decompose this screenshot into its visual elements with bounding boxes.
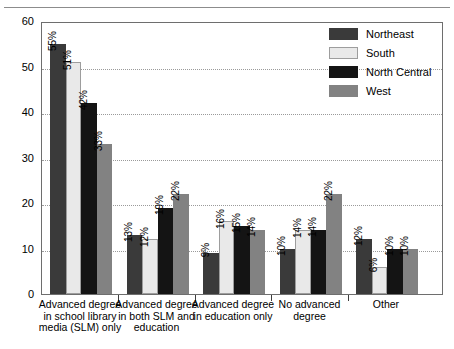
legend-label: North Central <box>366 66 431 78</box>
bar[interactable]: 14% <box>311 230 327 294</box>
bar-value-label: 22% <box>171 181 181 201</box>
bar[interactable]: 22% <box>173 194 189 294</box>
bar-value-label: 12% <box>140 227 150 247</box>
bar[interactable]: 14% <box>250 230 266 294</box>
legend-item[interactable]: North Central <box>329 62 447 81</box>
legend-label: Northeast <box>366 28 414 40</box>
x-axis-category-line: education <box>109 322 205 334</box>
bar[interactable]: 55% <box>50 44 66 294</box>
legend-swatch <box>329 28 358 40</box>
legend-swatch <box>329 66 358 78</box>
bar[interactable]: 22% <box>326 194 342 294</box>
y-axis-tick-label: 10 <box>8 243 34 255</box>
bar-group: 55%51%42%33% <box>50 23 112 294</box>
bar-value-label: 10% <box>385 235 395 255</box>
y-axis-tick-label: 40 <box>8 106 34 118</box>
y-axis-tick-label: 20 <box>8 197 34 209</box>
y-axis-tick-label: 0 <box>8 288 34 300</box>
bar-value-label: 42% <box>79 90 89 110</box>
bar[interactable]: 19% <box>158 208 174 294</box>
bar[interactable]: 9% <box>203 253 219 294</box>
bar-value-label: 15% <box>232 213 242 233</box>
legend-item[interactable]: South <box>329 43 447 62</box>
bar-value-label: 16% <box>216 209 226 229</box>
bar-value-label: 13% <box>124 222 134 242</box>
bar[interactable]: 12% <box>142 239 158 294</box>
x-axis-category-line: degree <box>262 311 358 323</box>
bar-group: 9%16%15%14% <box>203 23 265 294</box>
grouped-bar-chart: 0102030405060 55%51%42%33%13%12%19%22%9%… <box>0 0 454 349</box>
bar-value-label: 14% <box>247 217 257 237</box>
legend-label: West <box>366 85 391 97</box>
bar-value-label: 14% <box>293 218 303 238</box>
legend-swatch <box>329 47 358 59</box>
bar-value-label: 10% <box>277 235 287 255</box>
legend-item[interactable]: West <box>329 81 447 100</box>
y-axis-tick-label: 50 <box>8 61 34 73</box>
chart-legend: NortheastSouthNorth CentralWest <box>329 24 447 100</box>
bar[interactable]: 14% <box>295 230 311 294</box>
y-axis-tick-label: 30 <box>8 152 34 164</box>
legend-label: South <box>366 47 395 59</box>
y-axis-tick-label: 60 <box>8 15 34 27</box>
bar-value-label: 55% <box>48 31 58 51</box>
bar-value-label: 33% <box>94 131 104 151</box>
bar[interactable]: 33% <box>97 144 113 294</box>
bar-value-label: 19% <box>155 195 165 215</box>
bar-value-label: 6% <box>369 257 379 271</box>
bar-value-label: 51% <box>63 50 73 70</box>
bar-value-label: 14% <box>308 217 318 237</box>
bar-group: 13%12%19%22% <box>127 23 189 294</box>
bar[interactable]: 10% <box>280 249 296 295</box>
bar[interactable]: 6% <box>372 267 388 294</box>
legend-item[interactable]: Northeast <box>329 24 447 43</box>
legend-swatch <box>329 85 358 97</box>
x-axis-category-label: Other <box>338 299 434 311</box>
bar-value-label: 12% <box>354 226 364 246</box>
bar-value-label: 9% <box>201 243 211 257</box>
bar-value-label: 22% <box>324 181 334 201</box>
bar[interactable]: 10% <box>403 249 419 295</box>
bar-value-label: 10% <box>400 235 410 255</box>
x-axis-category-line: Other <box>338 299 434 311</box>
